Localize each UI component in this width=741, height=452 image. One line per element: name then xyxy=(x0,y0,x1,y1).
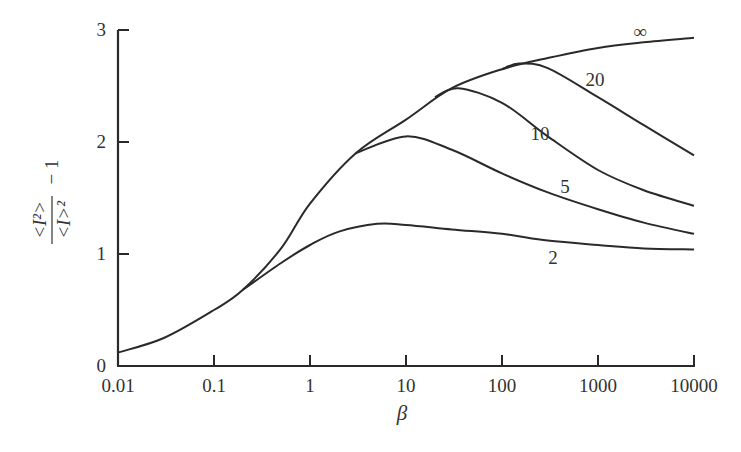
y-tick-label: 0 xyxy=(97,355,107,376)
y-tick-label: 2 xyxy=(97,131,107,152)
curve-infinity xyxy=(118,38,694,353)
x-tick-label: 10 xyxy=(397,375,416,396)
x-tick-label: 0.1 xyxy=(202,375,226,396)
y-tick-label: 3 xyxy=(97,19,107,40)
curves xyxy=(118,38,694,353)
x-tick-label: 1 xyxy=(305,375,315,396)
y-axis-numerator: <I²> xyxy=(29,201,50,239)
curve-2 xyxy=(243,223,694,289)
y-axis-ticks: 0123 xyxy=(97,19,130,376)
x-axis-ticks: 0.010.1110100100010000 xyxy=(101,355,717,396)
curve-label-20: 20 xyxy=(586,69,605,90)
x-tick-label: 100 xyxy=(488,375,517,396)
x-axis-title: β xyxy=(396,401,408,425)
curve-label-infinity: ∞ xyxy=(633,21,647,42)
x-tick-label: 10000 xyxy=(670,375,718,396)
y-axis-denominator: <I>² xyxy=(53,201,74,239)
curve-label-10: 10 xyxy=(531,123,550,144)
y-axis-suffix: − 1 xyxy=(41,160,62,185)
curve-label-2: 2 xyxy=(548,247,558,268)
y-tick-label: 1 xyxy=(97,243,107,264)
y-axis-title: <I²> <I>² − 1 xyxy=(29,160,74,244)
chart-canvas: 0.010.1110100100010000 0123 ∞201052 β <I… xyxy=(0,0,741,452)
curve-5 xyxy=(356,136,694,233)
curve-label-5: 5 xyxy=(560,176,570,197)
x-tick-label: 0.01 xyxy=(101,375,134,396)
x-tick-label: 1000 xyxy=(579,375,617,396)
